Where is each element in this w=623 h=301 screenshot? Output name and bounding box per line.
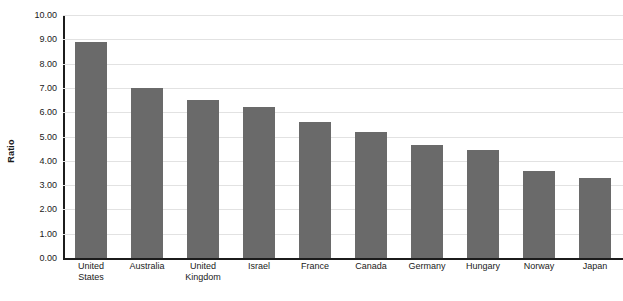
x-axis-tick-label: Norway (511, 261, 567, 272)
bar (579, 178, 611, 258)
bar (523, 171, 555, 258)
x-axis-tick-label: UnitedStates (63, 261, 119, 283)
y-axis-tick-label: 1.00 (13, 229, 57, 239)
y-axis-tick-label: 10.00 (13, 10, 57, 20)
y-axis-tick-label: 8.00 (13, 59, 57, 69)
bar (243, 107, 275, 258)
y-axis-tick-label: 2.00 (13, 204, 57, 214)
x-axis-tick-label: Canada (343, 261, 399, 272)
y-axis-tick-label: 9.00 (13, 34, 57, 44)
x-axis-tick-label-line: Germany (408, 261, 445, 271)
y-axis-tick-label: 3.00 (13, 180, 57, 190)
bar (75, 42, 107, 258)
bar (299, 122, 331, 258)
bar (467, 150, 499, 258)
x-axis-tick-label-line: United (78, 261, 104, 271)
y-axis-tick-label: 6.00 (13, 107, 57, 117)
x-axis-tick-label: France (287, 261, 343, 272)
bars-group (63, 15, 623, 258)
x-axis-tick-label-line: Kingdom (175, 272, 231, 283)
x-axis-tick-label-line: Australia (129, 261, 164, 271)
x-axis-tick-label-line: Hungary (466, 261, 500, 271)
plot-area: 10.009.008.007.006.005.004.003.002.001.0… (63, 15, 623, 258)
y-axis-tick-label: 0.00 (13, 253, 57, 263)
x-axis-tick-label: Japan (567, 261, 623, 272)
x-axis-tick-label-line: France (301, 261, 329, 271)
x-axis-baseline (63, 258, 623, 260)
x-axis-tick-label: Germany (399, 261, 455, 272)
x-axis-tick-label: UnitedKingdom (175, 261, 231, 283)
bar (187, 100, 219, 258)
y-axis-tick-label: 4.00 (13, 156, 57, 166)
x-axis-tick-label-line: Israel (248, 261, 270, 271)
x-axis-tick-label: Australia (119, 261, 175, 272)
x-axis-tick-label: Israel (231, 261, 287, 272)
bar (131, 88, 163, 258)
x-axis-tick-label-line: Canada (355, 261, 387, 271)
x-axis-tick-label-line: Norway (524, 261, 555, 271)
bar (355, 132, 387, 258)
bar (411, 145, 443, 258)
bar-chart: Ratio 10.009.008.007.006.005.004.003.002… (0, 0, 623, 301)
x-axis-tick-label-line: Japan (583, 261, 608, 271)
x-axis-tick-labels: UnitedStatesAustraliaUnitedKingdomIsrael… (63, 261, 623, 301)
x-axis-tick-label-line: States (63, 272, 119, 283)
x-axis-tick-label: Hungary (455, 261, 511, 272)
y-axis-tick-label: 5.00 (13, 132, 57, 142)
y-axis-tick-label: 7.00 (13, 83, 57, 93)
x-axis-tick-label-line: United (190, 261, 216, 271)
